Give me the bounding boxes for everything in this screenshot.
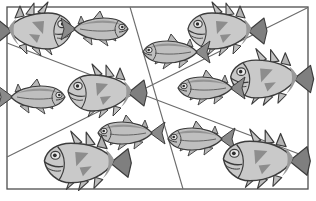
figure-root — [0, 0, 316, 201]
fish-sector-diagram — [0, 0, 316, 201]
